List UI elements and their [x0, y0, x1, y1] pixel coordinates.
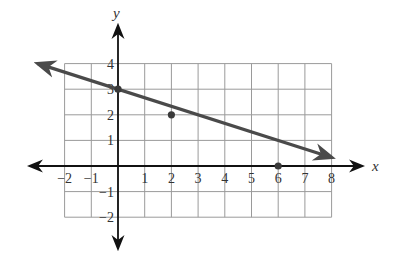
- x-tick-label: 1: [141, 171, 148, 186]
- x-axis-label: x: [371, 158, 379, 174]
- data-point: [114, 86, 121, 93]
- y-tick-label: 1: [107, 133, 114, 148]
- x-tick-label: 8: [328, 171, 335, 186]
- coordinate-plane: −2−1123456784321−1−2 x y: [0, 0, 405, 265]
- x-tick-label: 5: [248, 171, 255, 186]
- y-axis-label: y: [111, 5, 120, 21]
- y-tick-label: −2: [99, 210, 114, 225]
- axes: [30, 26, 362, 248]
- x-tick-label: −1: [84, 171, 99, 186]
- x-tick-label: 6: [275, 171, 282, 186]
- data-series: [38, 64, 332, 170]
- y-tick-label: 2: [107, 108, 114, 123]
- x-tick-label: 2: [168, 171, 175, 186]
- x-tick-label: 7: [301, 171, 308, 186]
- x-tick-label: −2: [57, 171, 72, 186]
- data-point: [275, 162, 282, 169]
- x-tick-label: 3: [195, 171, 202, 186]
- data-point: [168, 111, 175, 118]
- y-tick-label: 4: [107, 57, 114, 72]
- y-tick-label: −1: [99, 185, 114, 200]
- x-tick-label: 4: [221, 171, 228, 186]
- data-line: [38, 64, 332, 158]
